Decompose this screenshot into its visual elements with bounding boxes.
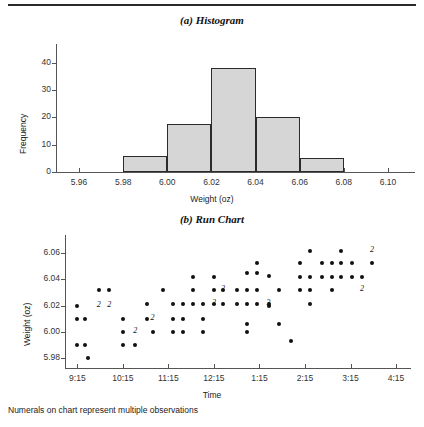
run-chart-point — [308, 288, 312, 292]
runchart-x-tick-label: 11:15 — [150, 373, 186, 383]
run-chart-point — [145, 302, 149, 306]
runchart-y-tick — [61, 279, 66, 280]
run-chart-point — [212, 275, 216, 279]
run-chart-point — [235, 302, 239, 306]
run-chart-point — [255, 302, 259, 306]
run-chart-point — [330, 261, 334, 265]
runchart-x-axis — [65, 368, 411, 369]
run-chart-multiplicity-label: 3 — [267, 298, 271, 307]
run-chart-point — [181, 317, 185, 321]
run-chart-point — [320, 275, 324, 279]
runchart-y-tick-label: 6.00 — [28, 326, 60, 336]
runchart-y-tick-label: 6.02 — [28, 300, 60, 310]
run-chart-point — [191, 288, 195, 292]
run-chart-point — [320, 261, 324, 265]
run-chart-point — [289, 339, 293, 343]
run-chart-multiplicity-label: 2 — [360, 284, 364, 293]
run-chart-point — [245, 271, 249, 275]
run-chart-point — [107, 288, 111, 292]
runchart-x-tick — [77, 364, 78, 369]
run-chart-point — [245, 288, 249, 292]
runchart-x-tick — [396, 364, 397, 369]
run-chart-multiplicity-label: 2 — [107, 300, 111, 309]
runchart-x-tick-label: 12:15 — [196, 373, 232, 383]
run-chart-point — [161, 288, 165, 292]
runchart-x-tick — [351, 364, 352, 369]
run-chart-point — [339, 275, 343, 279]
run-chart-point — [181, 330, 185, 334]
run-chart-point — [145, 317, 149, 321]
run-chart-point — [235, 288, 239, 292]
runchart-y-tick — [61, 253, 66, 254]
runchart-x-tick-label: 2:15 — [287, 373, 323, 383]
run-chart-point — [330, 275, 334, 279]
run-chart-panel: 5.986.006.026.046.069:1510:1511:1512:151… — [0, 0, 424, 427]
run-chart-point — [171, 302, 175, 306]
run-chart-point — [339, 249, 343, 253]
runchart-y-axis-title: Weight (oz) — [22, 303, 32, 346]
run-chart-point — [181, 302, 185, 306]
runchart-y-axis — [65, 235, 66, 369]
run-chart-point — [83, 343, 87, 347]
runchart-x-tick — [305, 364, 306, 369]
run-chart-point — [245, 322, 249, 326]
run-chart-multiplicity-label: 2 — [370, 245, 374, 254]
run-chart-point — [245, 330, 249, 334]
run-chart-point — [191, 302, 195, 306]
run-chart-point — [191, 275, 195, 279]
run-chart-point — [133, 343, 137, 347]
run-chart-point — [151, 330, 155, 334]
run-chart-point — [121, 343, 125, 347]
run-chart-point — [121, 330, 125, 334]
run-chart-point — [212, 288, 216, 292]
runchart-x-tick — [123, 364, 124, 369]
run-chart-point — [360, 275, 364, 279]
runchart-x-tick — [259, 364, 260, 369]
run-chart-point — [171, 317, 175, 321]
run-chart-point — [245, 302, 249, 306]
runchart-x-tick-label: 10:15 — [105, 373, 141, 383]
run-chart-point — [267, 274, 271, 278]
runchart-y-tick-label: 5.98 — [28, 352, 60, 362]
run-chart-point — [83, 317, 87, 321]
runchart-y-tick-label: 6.04 — [28, 273, 60, 283]
runchart-x-axis-title: Time — [0, 390, 424, 400]
run-chart-point — [255, 261, 259, 265]
run-chart-point — [277, 288, 281, 292]
run-chart-point — [255, 271, 259, 275]
runchart-x-tick-label: 4:15 — [378, 373, 414, 383]
run-chart-point — [308, 249, 312, 253]
runchart-y-tick-label: 6.06 — [28, 247, 60, 257]
runchart-y-tick — [61, 332, 66, 333]
run-chart-point — [298, 288, 302, 292]
run-chart-point — [86, 356, 90, 360]
run-chart-point — [201, 330, 205, 334]
run-chart-point — [308, 275, 312, 279]
run-chart-point — [97, 288, 101, 292]
runchart-x-tick — [214, 364, 215, 369]
run-chart-multiplicity-label: 2 — [212, 298, 216, 307]
runchart-x-tick-label: 9:15 — [59, 373, 95, 383]
run-chart-point — [339, 261, 343, 265]
runchart-x-tick — [168, 364, 169, 369]
run-chart-point — [350, 261, 354, 265]
run-chart-point — [121, 317, 125, 321]
run-chart-point — [75, 317, 79, 321]
figure-caption: Numerals on chart represent multiple obs… — [8, 405, 198, 415]
run-chart-point — [277, 322, 281, 326]
run-chart-point — [298, 261, 302, 265]
run-chart-multiplicity-label: 2 — [151, 313, 155, 322]
run-chart-multiplicity-label: 2 — [97, 300, 101, 309]
run-chart-point — [330, 288, 334, 292]
runchart-y-tick — [61, 358, 66, 359]
run-chart-multiplicity-label: 2 — [133, 326, 137, 335]
run-chart-multiplicity-label: 2 — [221, 284, 225, 293]
run-chart-point — [201, 302, 205, 306]
runchart-x-tick-label: 3:15 — [333, 373, 369, 383]
run-chart-point — [298, 275, 302, 279]
run-chart-point — [350, 275, 354, 279]
run-chart-point — [75, 343, 79, 347]
run-chart-point — [370, 261, 374, 265]
runchart-y-tick — [61, 306, 66, 307]
run-chart-point — [221, 302, 225, 306]
